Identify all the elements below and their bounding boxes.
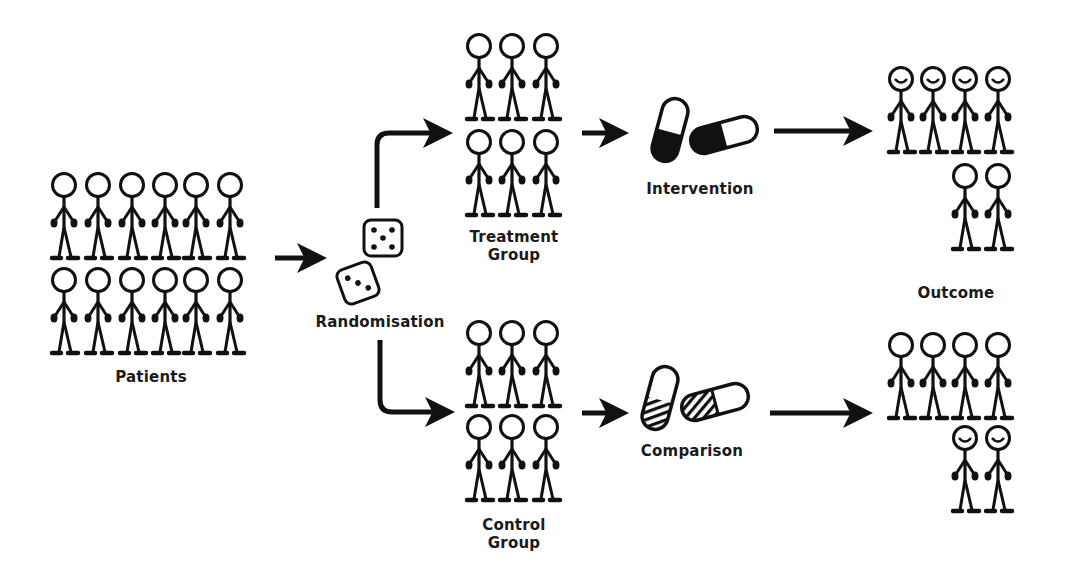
- outcome-treatment-group: [888, 68, 1013, 250]
- dice-icon: [335, 220, 402, 306]
- treatment-group: [466, 35, 561, 216]
- treatment-group-label-line1: Treatment: [462, 228, 566, 246]
- randomisation-label: Randomisation: [305, 313, 455, 331]
- patients-label: Patients: [96, 368, 206, 386]
- treatment-group-label-line2: Group: [462, 246, 566, 264]
- control-group-label-line1: Control: [462, 516, 566, 534]
- outcome-label: Outcome: [906, 284, 1006, 302]
- patients-row-1: [51, 174, 245, 259]
- arrow-to-control: [380, 340, 440, 412]
- patients-row-2: [51, 269, 245, 354]
- control-group-label-line2: Group: [462, 534, 566, 552]
- arrow-to-treatment: [377, 133, 438, 208]
- control-group: [466, 322, 561, 501]
- patients-group: [51, 174, 245, 354]
- outcome-control-group: [888, 334, 1013, 512]
- intervention-label: Intervention: [640, 180, 760, 198]
- pill-striped-icon: [639, 364, 752, 434]
- comparison-label: Comparison: [632, 442, 752, 460]
- treatment-group-label: Treatment Group: [462, 228, 566, 264]
- pill-solid-icon: [649, 96, 761, 166]
- control-group-label: Control Group: [462, 516, 566, 552]
